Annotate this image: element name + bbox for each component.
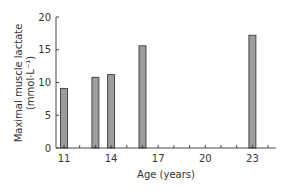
bar-age-16	[139, 46, 146, 148]
y-axis: 05101520	[38, 12, 59, 154]
x-axis-title: Age (years)	[137, 169, 195, 180]
bar-age-11	[61, 88, 68, 148]
y-tick-label: 5	[45, 110, 51, 121]
bar-age-13	[92, 77, 99, 148]
bar-chart: 1114172023 05101520 Age (years) Maximal …	[0, 0, 285, 191]
y-axis-unit: (mmol·L⁻¹)	[25, 56, 36, 110]
x-tick-label: 11	[58, 153, 71, 164]
bars	[61, 35, 256, 148]
bar-age-14	[108, 75, 115, 148]
y-tick-label: 0	[45, 143, 51, 154]
y-tick-label: 20	[38, 12, 51, 23]
y-tick-label: 15	[38, 44, 51, 55]
x-tick-label: 23	[246, 153, 259, 164]
x-tick-label: 20	[199, 153, 212, 164]
x-tick-label: 17	[152, 153, 165, 164]
y-tick-label: 10	[38, 77, 51, 88]
bar-age-23	[249, 35, 256, 148]
x-tick-label: 14	[105, 153, 118, 164]
x-axis: 1114172023	[56, 145, 276, 164]
y-axis-title: Maximal muscle lactate	[13, 24, 24, 143]
